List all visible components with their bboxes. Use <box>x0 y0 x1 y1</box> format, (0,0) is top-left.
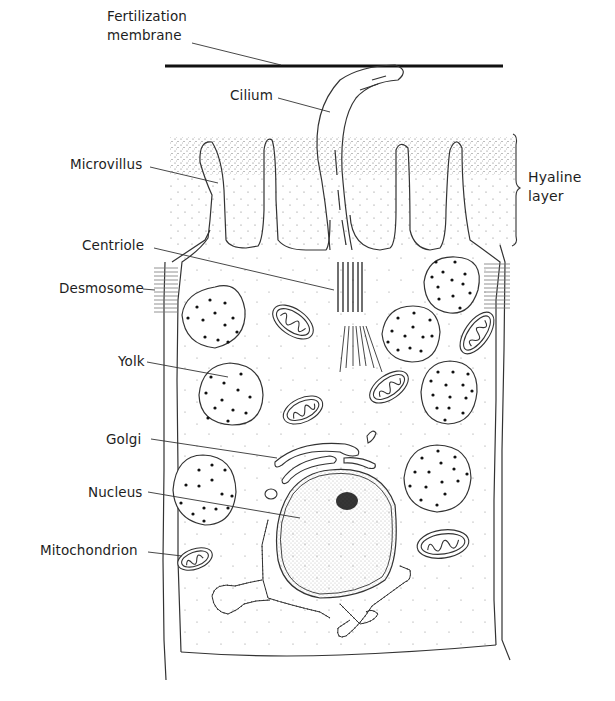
label-nucleus: Nucleus <box>88 484 142 500</box>
yolk-2 <box>199 363 263 425</box>
label-mitochondrion: Mitochondrion <box>40 542 138 558</box>
yolk-4 <box>382 306 440 362</box>
label-golgi: Golgi <box>106 431 141 447</box>
yolk-7 <box>404 445 471 512</box>
label-hyaline-layer-line2: layer <box>528 188 564 204</box>
label-hyaline-layer-line1: Hyaline <box>528 169 581 185</box>
yolk-6 <box>173 455 236 525</box>
label-desmosome: Desmosome <box>59 280 144 296</box>
desmosome-left <box>154 268 178 312</box>
cell-diagram <box>0 0 615 701</box>
label-cilium: Cilium <box>230 87 273 103</box>
label-fertilization-membrane-line2: membrane <box>107 27 182 43</box>
label-centriole: Centriole <box>82 237 144 253</box>
label-yolk: Yolk <box>118 353 145 369</box>
label-fertilization-membrane-line1: Fertilization <box>107 8 187 24</box>
nucleus <box>277 469 397 598</box>
label-microvillus: Microvillus <box>70 156 142 172</box>
yolk-3 <box>424 257 479 313</box>
yolk-5 <box>421 361 477 424</box>
